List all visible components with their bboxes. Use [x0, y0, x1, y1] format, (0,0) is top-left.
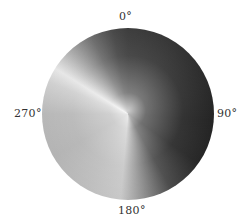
angle-label-270: 270° [14, 108, 42, 119]
angle-label-180: 180° [118, 205, 146, 216]
angle-label-90: 90° [217, 108, 237, 119]
center-highlight [42, 28, 214, 200]
angle-label-0: 0° [119, 11, 132, 22]
gradient-disc [42, 28, 214, 200]
